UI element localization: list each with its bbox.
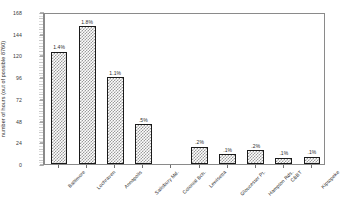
x-axis-category-label: Baltimore (66, 169, 86, 189)
bar (219, 154, 236, 164)
bar-value-label: .1% (307, 149, 316, 155)
x-axis-category-label: Lochraven (95, 169, 116, 190)
y-axis-tick-label: 96 (16, 75, 22, 81)
x-axis-tick-mark (311, 165, 312, 168)
bar-value-label: 1.1% (109, 70, 121, 76)
x-axis-tick-mark (86, 165, 87, 168)
bar-value-label: .1% (223, 147, 232, 153)
x-axis-tick-mark (227, 165, 228, 168)
bar (247, 150, 264, 164)
x-axis-tick-mark (283, 165, 284, 168)
y-axis-title: number of hours (out of possible 8760) (0, 41, 6, 137)
bar (79, 26, 96, 164)
x-axis-category-label: Colonial Bch. (181, 169, 207, 195)
bar (304, 157, 321, 164)
x-axis-category-label: Hampton Rds. (266, 169, 294, 197)
x-axis-category-label: Salisbury Md. (154, 169, 181, 196)
y-axis-tick-label: 144 (13, 32, 22, 38)
bar (135, 124, 152, 164)
y-axis-tick-label: 120 (13, 53, 22, 59)
y-axis-minor-tick (39, 165, 43, 166)
y-axis-tick-label: 24 (16, 140, 22, 146)
bar (51, 52, 68, 164)
x-axis-tick-mark (58, 165, 59, 168)
x-axis-category-label: Lewisetta (207, 169, 227, 189)
bar (275, 158, 292, 164)
bar-value-label: 1.4% (53, 44, 65, 50)
bar-series: 1.4%1.8%1.1%.5%.2%.1%.2%.1%.1% (45, 14, 324, 164)
plot-area: 1.4%1.8%1.1%.5%.2%.1%.2%.1%.1% (44, 13, 325, 165)
x-axis-tick-mark (255, 165, 256, 168)
y-axis-tick-label: 0 (19, 162, 22, 168)
x-axis-tick-mark (199, 165, 200, 168)
bar-value-label: .1% (279, 150, 288, 156)
x-axis-tick-mark (114, 165, 115, 168)
bar (191, 147, 208, 164)
x-axis-category-label: Gloucester Pt. (238, 169, 266, 197)
x-axis-category-label: Annapolis (123, 169, 143, 189)
bar-value-label: .2% (251, 143, 260, 149)
x-axis-category-label: Kiptopeke (320, 169, 340, 190)
y-axis-tick-label: 72 (16, 97, 22, 103)
y-axis: number of hours (out of possible 8760) 0… (0, 0, 44, 200)
x-axis-tick-mark (170, 165, 171, 168)
bar-value-label: .2% (195, 139, 204, 145)
bar-value-label: 1.8% (81, 19, 93, 25)
x-axis-tick-mark (142, 165, 143, 168)
bar (107, 77, 124, 164)
bar-value-label: .5% (139, 117, 148, 123)
y-axis-tick-label: 168 (13, 10, 22, 16)
y-axis-tick-label: 48 (16, 119, 22, 125)
